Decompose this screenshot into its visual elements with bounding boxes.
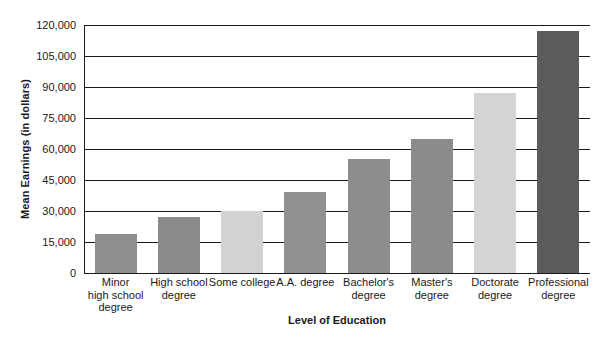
x-axis-title: Level of Education [84,314,590,326]
bar [411,139,453,273]
x-axis-tick-label-line: high school [80,289,151,302]
x-axis-tick-label-line: Bachelor's [333,276,404,289]
x-axis-tick-label-line: Some college [207,276,278,289]
x-axis-tick-label-line: Doctorate [460,276,531,289]
x-axis-tick-label-line: degree [523,289,594,302]
x-axis-tick-label-line: A.A. degree [270,276,341,289]
x-axis-tick-label: Master'sdegree [396,276,467,301]
y-axis-tick-label: 0 [70,267,76,279]
x-axis-tick-label-line: High school [143,276,214,289]
x-axis-tick-label: Minorhigh schooldegree [80,276,151,314]
x-axis-tick-label-line: degree [333,289,404,302]
x-axis-tick-label-line: Professional [523,276,594,289]
x-axis-tick-label-line: degree [396,289,467,302]
y-axis-tick-label: 90,000 [42,81,76,93]
y-axis-tick-label: 60,000 [42,143,76,155]
x-axis-line [84,273,590,274]
y-axis-tick-label: 105,000 [36,50,76,62]
y-axis-tick-labels: 015,00030,00045,00060,00075,00090,000105… [28,25,80,273]
y-axis-tick-label: 30,000 [42,205,76,217]
x-axis-tick-label-line: degree [460,289,531,302]
bar [95,234,137,273]
bar [158,217,200,273]
y-axis-tick-label: 15,000 [42,236,76,248]
bar-chart: Mean Earnings (in dollars) 015,00030,000… [0,0,605,344]
y-axis-tick-label: 120,000 [36,19,76,31]
bar [348,159,390,273]
x-axis-tick-label-line: degree [80,301,151,314]
x-axis-tick-label-line: Minor [80,276,151,289]
x-axis-tick-label: A.A. degree [270,276,341,289]
bar [221,211,263,273]
bar [284,192,326,273]
x-axis-tick-label: Bachelor'sdegree [333,276,404,301]
bar [474,93,516,273]
bars-layer [84,25,590,273]
x-axis-tick-label: High schooldegree [143,276,214,301]
x-axis-tick-label-line: Master's [396,276,467,289]
x-axis-tick-label: Professionaldegree [523,276,594,301]
y-axis-tick-label: 45,000 [42,174,76,186]
y-axis-tick-label: 75,000 [42,112,76,124]
x-axis-tick-label: Some college [207,276,278,289]
x-axis-tick-label-line: degree [143,289,214,302]
x-axis-tick-label: Doctoratedegree [460,276,531,301]
bar [537,31,579,273]
